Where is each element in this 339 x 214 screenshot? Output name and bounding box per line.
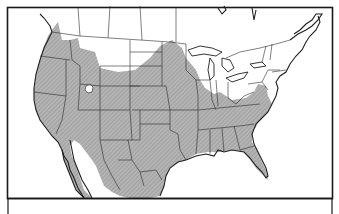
range-map xyxy=(0,0,339,214)
map-canvas xyxy=(0,0,339,214)
